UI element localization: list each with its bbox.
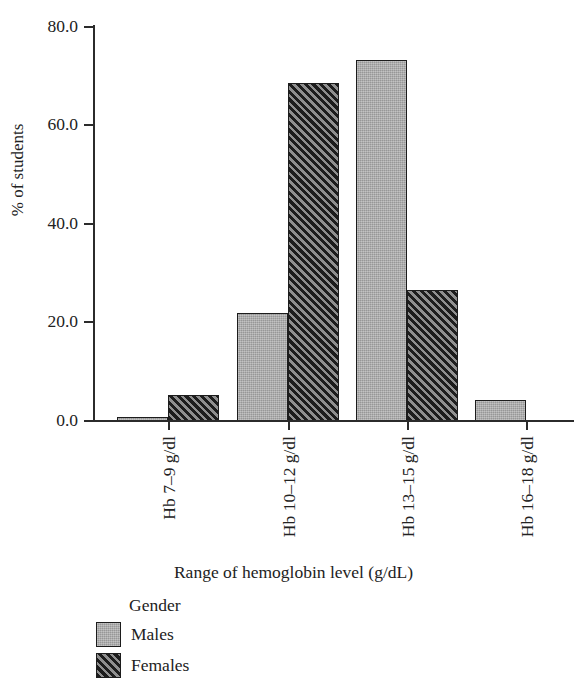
y-tick-60 bbox=[84, 124, 94, 126]
legend-swatch-females-icon bbox=[96, 653, 121, 678]
legend-title: Gender bbox=[129, 596, 356, 615]
y-tick-label-20: 20.0 bbox=[0, 313, 78, 331]
bar-females-hb-13-15 bbox=[407, 290, 458, 421]
y-tick-80 bbox=[84, 26, 94, 28]
y-tick-label-80: 80.0 bbox=[0, 18, 78, 36]
x-tick-hb-16-18 bbox=[526, 421, 528, 430]
y-tick-label-0: 0.0 bbox=[0, 412, 78, 430]
x-tick-hb-7-9 bbox=[168, 421, 170, 430]
bar-males-hb-13-15 bbox=[356, 60, 407, 421]
legend-swatch-males-icon bbox=[96, 622, 121, 647]
y-tick-20 bbox=[84, 321, 94, 323]
y-axis-title-wrap: % of students bbox=[8, 90, 28, 250]
bar-females-hb-10-12 bbox=[288, 83, 339, 421]
legend: Gender Males Females bbox=[96, 596, 356, 681]
legend-label-females: Females bbox=[131, 657, 189, 675]
bar-females-hb-7-9 bbox=[168, 395, 219, 421]
bar-males-hb-10-12 bbox=[237, 313, 288, 421]
hemoglobin-bar-chart: 80.0 60.0 40.0 20.0 0.0 % of students Hb… bbox=[0, 0, 587, 689]
legend-entry-females: Females bbox=[96, 650, 356, 681]
x-axis-title: Range of hemoglobin level (g/dL) bbox=[0, 562, 587, 583]
y-axis-title: % of students bbox=[8, 124, 27, 217]
x-axis-line bbox=[93, 420, 574, 422]
legend-entry-males: Males bbox=[96, 619, 356, 650]
plot-area bbox=[94, 26, 574, 421]
x-tick-hb-10-12 bbox=[288, 421, 290, 430]
legend-label-males: Males bbox=[131, 626, 174, 644]
y-tick-40 bbox=[84, 223, 94, 225]
x-tick-hb-13-15 bbox=[407, 421, 409, 430]
bar-males-hb-16-18 bbox=[475, 400, 526, 421]
